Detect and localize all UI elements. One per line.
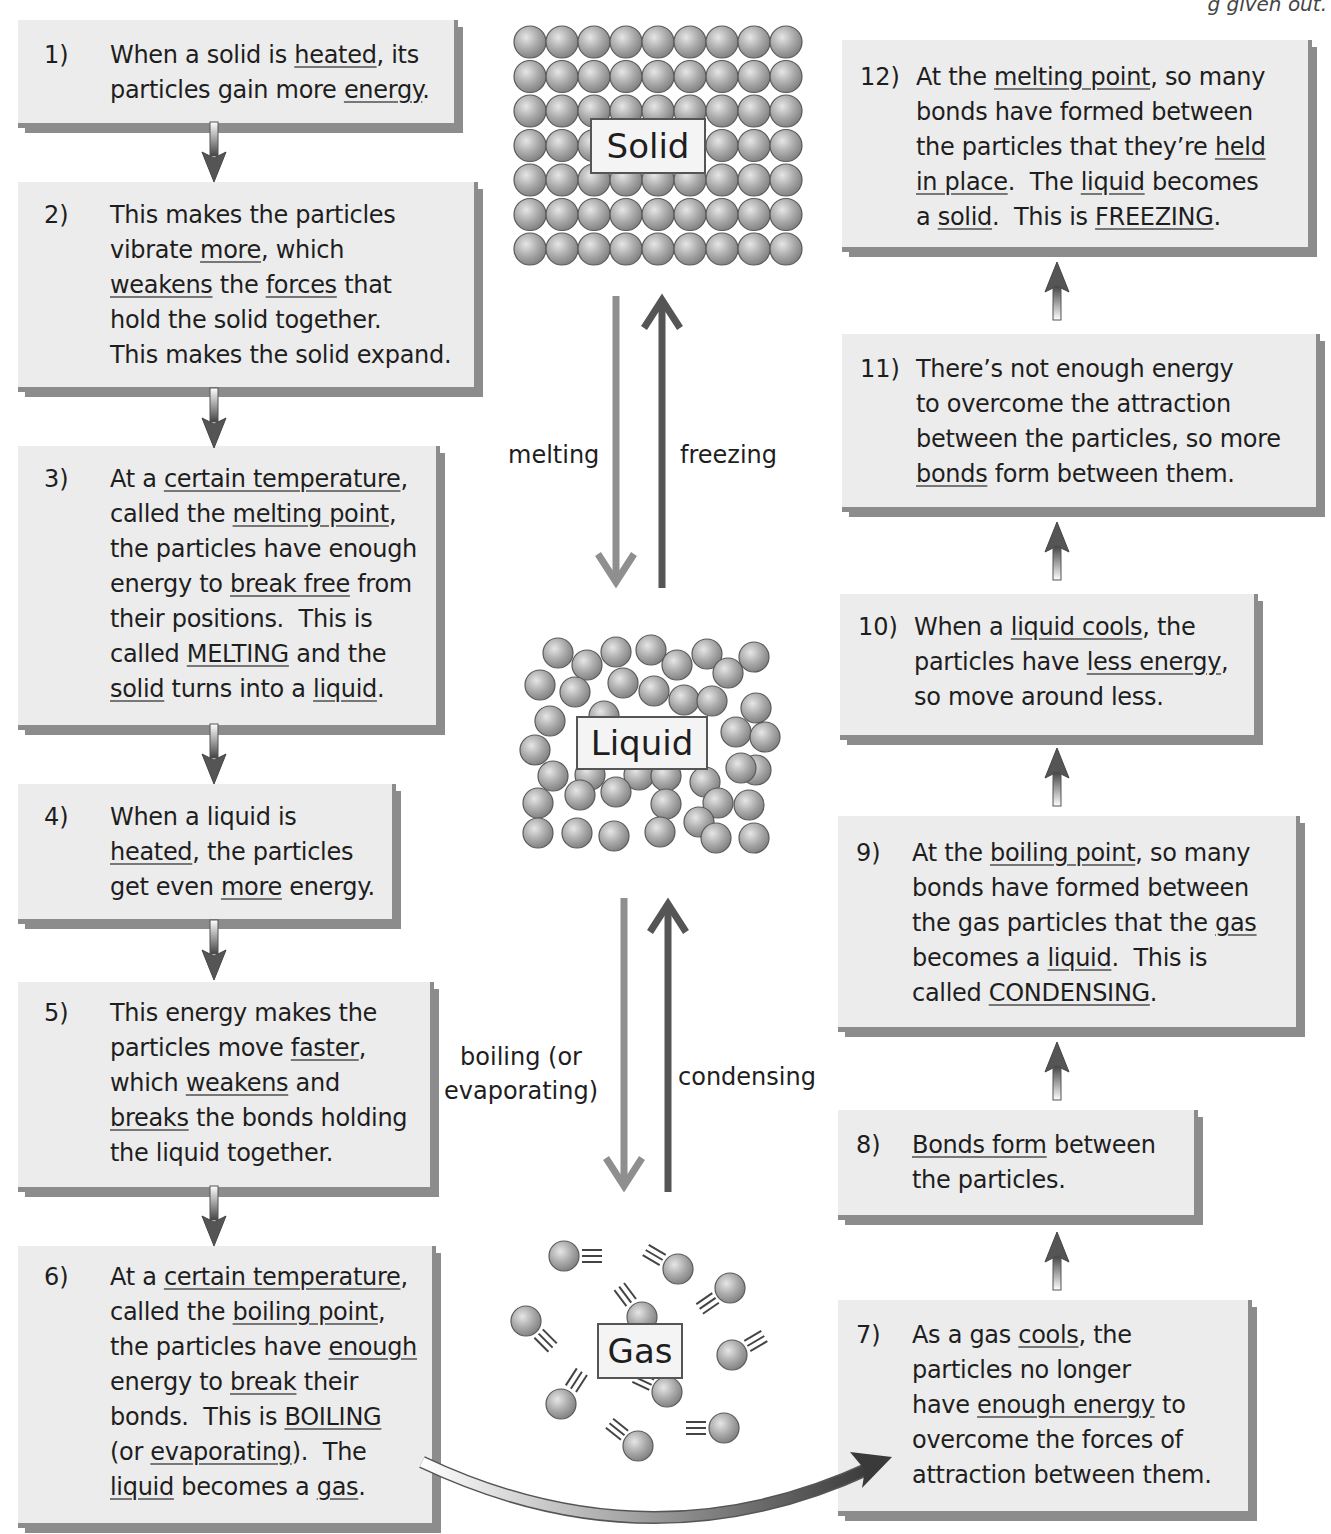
step-number: 12) <box>860 60 900 95</box>
step-text: At a certain temperature,called the melt… <box>110 462 426 707</box>
step-9-box: 9) At the boiling point, so manybonds ha… <box>838 816 1300 1032</box>
step-number: 11) <box>860 352 900 387</box>
step-number: 1) <box>44 38 69 73</box>
arrow-up-icon <box>1043 520 1073 582</box>
arrow-down-icon <box>200 920 230 982</box>
step-5-box: 5) This energy makes theparticles move f… <box>18 982 434 1192</box>
step-3-box: 3) At a certain temperature,called the m… <box>18 446 440 730</box>
arrow-down-icon <box>200 1186 230 1248</box>
gas-label: Gas <box>597 1323 683 1379</box>
step-text: At a certain temperature,called the boil… <box>110 1260 422 1505</box>
arrow-down-icon <box>200 724 230 786</box>
step-text: This makes the particlesvibrate more, wh… <box>110 198 464 373</box>
step-number: 4) <box>44 800 69 835</box>
step-text: When a solid is heated, itsparticles gai… <box>110 38 444 108</box>
cut-off-caption: g given out. <box>1207 0 1327 16</box>
freezing-arrow-icon <box>642 292 682 594</box>
arrow-up-icon <box>1043 746 1073 808</box>
step-8-box: 8) Bonds form betweenthe particles. <box>838 1110 1198 1220</box>
step-11-box: 11) There’s not enough energyto overcome… <box>842 334 1320 512</box>
step-text: At the boiling point, so manybonds have … <box>912 836 1286 1011</box>
melting-label: melting <box>508 438 599 472</box>
arrow-up-icon <box>1043 260 1073 322</box>
step-text: At the melting point, so manybonds have … <box>916 60 1298 235</box>
step-text: When a liquid cools, theparticles have l… <box>914 610 1244 715</box>
step-number: 9) <box>856 836 881 871</box>
arrow-up-icon <box>1043 1040 1073 1102</box>
step-number: 10) <box>858 610 898 645</box>
boiling-label: boiling (or evaporating) <box>444 1040 598 1108</box>
liquid-label: Liquid <box>576 716 708 770</box>
step-number: 8) <box>856 1128 881 1163</box>
step-10-box: 10) When a liquid cools, theparticles ha… <box>840 594 1258 740</box>
step-6-box: 6) At a certain temperature,called the b… <box>18 1246 436 1528</box>
step-text: This energy makes theparticles move fast… <box>110 996 420 1171</box>
step-text: When a liquid isheated, the particlesget… <box>110 800 382 905</box>
arrow-down-icon <box>200 122 230 184</box>
condensing-label: condensing <box>678 1060 816 1094</box>
arrow-up-icon <box>1043 1230 1073 1292</box>
condensing-arrow-icon <box>648 896 688 1196</box>
melting-arrow-icon <box>596 292 636 594</box>
step-12-box: 12) At the melting point, so manybonds h… <box>842 40 1312 252</box>
step-number: 6) <box>44 1260 69 1295</box>
solid-label: Solid <box>590 118 706 174</box>
step-2-box: 2) This makes the particlesvibrate more,… <box>18 182 478 392</box>
step-number: 5) <box>44 996 69 1031</box>
boiling-label-line1: boiling (or <box>444 1040 598 1074</box>
boiling-arrow-icon <box>604 896 644 1196</box>
step-7-box: 7) As a gas cools, theparticles no longe… <box>838 1300 1252 1516</box>
curved-arrow-icon <box>410 1440 900 1534</box>
step-number: 3) <box>44 462 69 497</box>
arrow-down-icon <box>200 388 230 450</box>
freezing-label: freezing <box>680 438 777 472</box>
step-number: 7) <box>856 1318 881 1353</box>
step-text: Bonds form betweenthe particles. <box>912 1128 1184 1198</box>
step-text: As a gas cools, theparticles no longerha… <box>912 1318 1238 1493</box>
step-text: There’s not enough energyto overcome the… <box>916 352 1306 492</box>
boiling-label-line2: evaporating) <box>444 1074 598 1108</box>
step-4-box: 4) When a liquid isheated, the particles… <box>18 784 396 924</box>
step-1-box: 1) When a solid is heated, itsparticles … <box>18 20 458 128</box>
step-number: 2) <box>44 198 69 233</box>
